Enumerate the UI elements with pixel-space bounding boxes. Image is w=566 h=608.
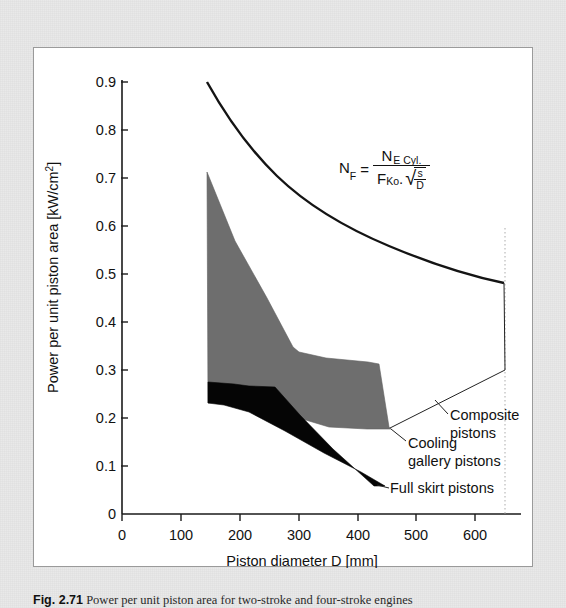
y-axis-title: Power per unit piston area [kW/cm2] [44,162,61,393]
y-tick-label-0.3: 0.3 [96,362,116,378]
leader-cooling-gallery [391,429,406,441]
annotation-full-skirt-line1: Full skirt pistons [390,480,494,496]
figure-caption: Fig. 2.71 Power per unit piston area for… [33,593,553,608]
plot-svg: Power per unit piston area [kW/cm2] 0.9 … [34,48,534,568]
chart-panel: Power per unit piston area [kW/cm2] 0.9 … [33,47,533,567]
formula-lhs: NF [339,159,356,179]
x-tick-label-600: 600 [463,527,487,543]
x-tick-label-0: 0 [118,527,126,543]
formula-denominator: FKo. √ s D [373,166,430,190]
y-tick-label-0.6: 0.6 [96,218,116,234]
formula-nf: NF = NE Cyl. FKo. √ s D [339,148,430,190]
y-tick-label-0.5: 0.5 [96,266,116,282]
x-tick-label-100: 100 [169,527,193,543]
x-tick-label-500: 500 [404,527,428,543]
formula-numerator: NE Cyl. [377,148,425,165]
y-tick-label-0.4: 0.4 [96,314,116,330]
y-tick-label-0.7: 0.7 [96,170,116,186]
y-axis-title-group: Power per unit piston area [kW/cm2] [44,162,61,393]
annotation-composite-pistons: Composite pistons [450,407,519,441]
y-tick-label-0.9: 0.9 [96,74,116,90]
y-tick-label-0.2: 0.2 [96,410,116,426]
y-tick-group: 0.9 0.8 0.7 0.6 0.5 0.4 0.3 [96,74,128,522]
annotation-cooling-line1: Cooling [408,435,457,451]
annotation-cooling-line2: gallery pistons [408,453,501,469]
figure-caption-label: Fig. 2.71 [33,593,83,607]
figure-root: Power per unit piston area [kW/cm2] 0.9 … [0,0,566,608]
radical-sign: √ [405,168,416,188]
formula-fraction: NE Cyl. FKo. √ s D [373,148,430,190]
x-tick-label-200: 200 [228,527,252,543]
y-tick-label-0.8: 0.8 [96,122,116,138]
x-tick-label-300: 300 [287,527,311,543]
x-axis-title: Piston diameter D [mm] [226,553,378,568]
radical-numerator: s [415,168,424,179]
annotation-composite-line1: Composite [450,407,519,423]
annotation-full-skirt-pistons: Full skirt pistons [390,480,494,496]
x-tick-group: 0 100 200 300 400 500 600 [118,514,487,543]
x-tick-label-400: 400 [346,527,370,543]
formula-equals: = [360,161,369,178]
y-tick-label-0.1: 0.1 [96,458,116,474]
y-tick-label-0: 0 [108,506,116,522]
figure-caption-text: Power per unit piston area for two-strok… [86,593,412,607]
formula-radical: √ s D [405,167,426,190]
